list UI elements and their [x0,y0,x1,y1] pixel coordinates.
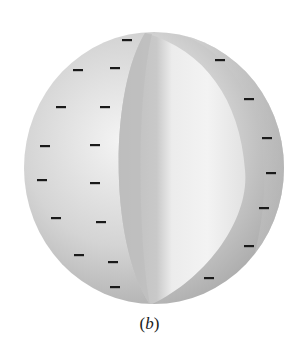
negative-charge-icon [122,39,132,41]
negative-charge-icon [100,106,110,108]
caption-close: ) [154,314,160,333]
negative-charge-icon [73,69,83,71]
negative-charge-icon [244,245,254,247]
negative-charge-icon [90,144,100,146]
negative-charge-icon [74,254,84,256]
negative-charge-icon [108,261,118,263]
negative-charge-icon [51,217,61,219]
negative-charge-icon [96,221,106,223]
negative-charge-icon [56,106,66,108]
negative-charge-icon [266,172,276,174]
negative-charge-icon [204,277,214,279]
charged-sphere-diagram [0,0,299,349]
negative-charge-icon [90,182,100,184]
negative-charge-icon [37,179,47,181]
negative-charge-icon [244,98,254,100]
negative-charge-icon [110,67,120,69]
negative-charge-icon [110,286,120,288]
caption-letter: b [145,314,154,333]
figure-caption: (b) [0,314,299,334]
negative-charge-icon [259,207,269,209]
negative-charge-icon [215,59,225,61]
negative-charge-icon [40,145,50,147]
negative-charge-icon [262,137,272,139]
